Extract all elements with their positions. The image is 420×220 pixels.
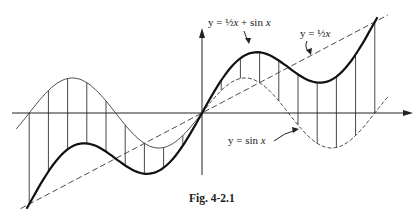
line-label: y = ½x xyxy=(300,27,330,39)
x-axis-arrow-icon xyxy=(403,110,413,116)
label-var: x xyxy=(261,134,266,146)
half-x-line xyxy=(21,15,388,209)
figure-caption: Fig. 4-2.1 xyxy=(189,192,235,204)
label-text: y = sin xyxy=(228,134,261,146)
label-text: y = xyxy=(300,27,317,39)
y-axis-arrow-icon xyxy=(199,28,205,38)
sum-curve-label: y = ½x + sin x xyxy=(208,16,271,28)
sine-label-arrowhead-icon xyxy=(292,127,299,133)
figure-canvas xyxy=(0,0,420,220)
sum-label-arrowhead-icon xyxy=(245,38,251,44)
sine-label-pointer-icon xyxy=(274,130,296,141)
label-var: x xyxy=(325,27,330,39)
label-text: + sin xyxy=(238,16,265,28)
label-text: y = xyxy=(208,16,225,28)
label-var: x xyxy=(266,16,271,28)
sine-label: y = sin x xyxy=(228,134,266,146)
